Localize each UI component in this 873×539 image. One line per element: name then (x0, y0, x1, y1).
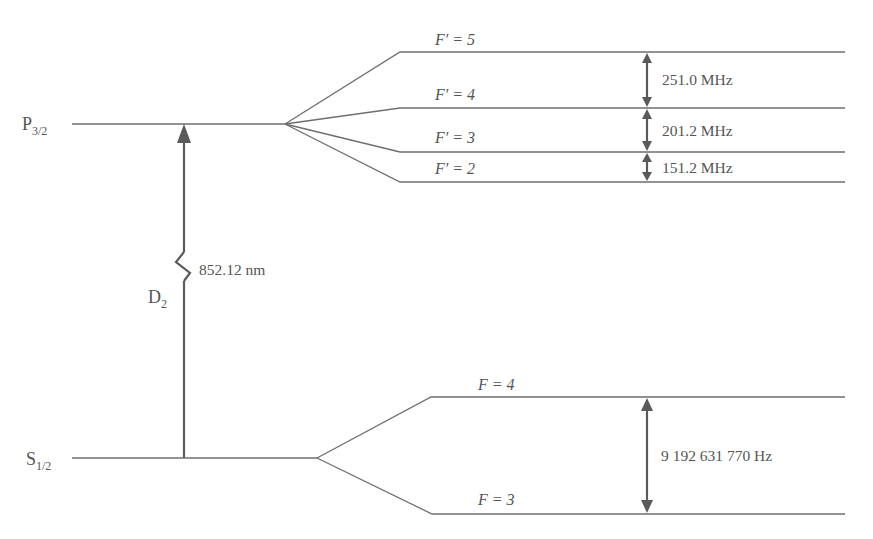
level-line-fprime-5 (285, 52, 845, 124)
sublevel-label-fprime-3: F′ = 3 (434, 129, 475, 146)
double-arrow-icon (641, 398, 653, 513)
splitting-value-3-2: 151.2 MHz (662, 159, 733, 176)
d2-transition-arrow: D2 852.12 nm (148, 124, 265, 458)
arrowhead-up-icon (177, 124, 191, 143)
hyperfine-splitting-value: 9 192 631 770 Hz (661, 447, 772, 464)
sublevel-label-fprime-4: F′ = 4 (434, 86, 475, 103)
transition-wavelength: 852.12 nm (199, 261, 265, 278)
excited-state-label: P3/2 (22, 114, 47, 138)
double-arrow-icon (642, 109, 652, 151)
sublevel-label-fprime-2: F′ = 2 (434, 160, 475, 177)
splitting-value-5-4: 251.0 MHz (662, 71, 733, 88)
sublevel-label-f-3: F = 3 (477, 491, 515, 508)
level-line-f-3 (317, 458, 845, 514)
excited-state-group: P3/2 F′ = 5 F′ = 4 F′ = 3 F′ = 2 251.0 M… (22, 31, 845, 182)
ground-state-label: S1/2 (26, 449, 51, 473)
energy-level-diagram: P3/2 F′ = 5 F′ = 4 F′ = 3 F′ = 2 251.0 M… (0, 0, 873, 539)
splitting-value-4-3: 201.2 MHz (662, 122, 733, 139)
level-line-fprime-4 (285, 108, 845, 124)
double-arrow-icon (642, 53, 652, 107)
ground-state-group: S1/2 F = 4 F = 3 9 192 631 770 Hz (26, 376, 845, 514)
transition-name: D2 (148, 287, 167, 311)
double-arrow-icon (642, 153, 652, 181)
sublevel-label-f-4: F = 4 (477, 376, 515, 393)
sublevel-label-fprime-5: F′ = 5 (434, 31, 475, 48)
level-line-fprime-3 (285, 124, 845, 152)
level-line-fprime-2 (285, 124, 845, 182)
